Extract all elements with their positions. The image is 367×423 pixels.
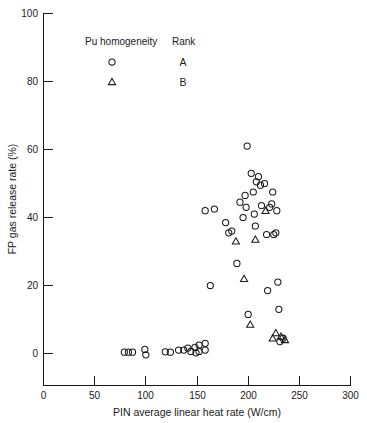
legend-entry-rank-a: A bbox=[109, 56, 187, 68]
data-point-circle bbox=[276, 306, 282, 312]
data-point-circle bbox=[274, 208, 280, 214]
data-point-circle bbox=[257, 182, 263, 188]
y-axis-title: FP gas release rate (%) bbox=[6, 144, 18, 255]
data-point-circle bbox=[265, 288, 271, 294]
scatter-plot-figure: 100 80 60 40 20 0 0 50 100 150 200 250 3… bbox=[0, 0, 367, 423]
x-tick-label: 100 bbox=[137, 390, 154, 401]
legend: Pu homogeneity Rank A B bbox=[85, 36, 196, 88]
legend-rank-label: B bbox=[179, 76, 186, 88]
data-point-triangle bbox=[252, 236, 259, 242]
data-point-circle bbox=[211, 206, 217, 212]
y-tick-label: 40 bbox=[27, 212, 39, 223]
data-point-triangle bbox=[272, 330, 279, 336]
data-point-circle bbox=[223, 220, 229, 226]
x-axis-ticks bbox=[44, 376, 351, 386]
data-point-circle bbox=[258, 203, 264, 209]
y-axis-tick-labels: 100 80 60 40 20 0 bbox=[21, 8, 38, 359]
data-point-circle bbox=[242, 192, 248, 198]
data-point-circle bbox=[202, 340, 208, 346]
x-tick-label: 150 bbox=[189, 390, 206, 401]
y-tick-label: 100 bbox=[21, 8, 38, 19]
data-point-circle bbox=[240, 214, 246, 220]
data-point-circle bbox=[202, 208, 208, 214]
legend-column-header-rank: Rank bbox=[172, 36, 196, 47]
x-axis-title: PIN average linear heat rate (W/cm) bbox=[113, 406, 281, 418]
data-point-triangle bbox=[232, 238, 239, 244]
x-tick-label: 200 bbox=[240, 390, 257, 401]
data-point-circle bbox=[248, 170, 254, 176]
triangle-marker-icon bbox=[108, 78, 115, 84]
y-tick-label: 0 bbox=[32, 348, 38, 359]
legend-rank-label: A bbox=[179, 56, 186, 68]
series-rank-b bbox=[232, 207, 288, 342]
data-point-circle bbox=[237, 199, 243, 205]
legend-column-header-homogeneity: Pu homogeneity bbox=[85, 36, 157, 47]
data-point-circle bbox=[263, 231, 269, 237]
data-point-circle bbox=[202, 347, 208, 353]
data-point-circle bbox=[243, 204, 249, 210]
y-tick-label: 80 bbox=[27, 76, 39, 87]
data-point-circle bbox=[129, 349, 135, 355]
x-tick-label: 0 bbox=[41, 390, 47, 401]
data-point-circle bbox=[250, 189, 256, 195]
circle-marker-icon bbox=[109, 59, 115, 65]
x-tick-label: 50 bbox=[89, 390, 101, 401]
data-points-layer bbox=[121, 143, 288, 358]
data-point-circle bbox=[270, 189, 276, 195]
plot-canvas: 100 80 60 40 20 0 0 50 100 150 200 250 3… bbox=[0, 0, 367, 423]
data-point-circle bbox=[207, 282, 213, 288]
data-point-triangle bbox=[241, 275, 248, 281]
x-tick-label: 300 bbox=[342, 390, 359, 401]
legend-entry-rank-b: B bbox=[108, 76, 186, 88]
data-point-circle bbox=[245, 311, 251, 317]
y-tick-label: 20 bbox=[27, 280, 39, 291]
x-axis-tick-labels: 0 50 100 150 200 250 300 bbox=[41, 390, 360, 401]
y-tick-label: 60 bbox=[27, 144, 39, 155]
y-axis-ticks bbox=[44, 14, 54, 354]
series-rank-a bbox=[121, 143, 286, 358]
data-point-circle bbox=[261, 180, 267, 186]
data-point-circle bbox=[252, 223, 258, 229]
data-point-triangle bbox=[247, 321, 254, 327]
axes bbox=[44, 13, 352, 386]
data-point-circle bbox=[244, 143, 250, 149]
data-point-circle bbox=[234, 260, 240, 266]
data-point-circle bbox=[275, 279, 281, 285]
data-point-circle bbox=[251, 211, 257, 217]
x-tick-label: 250 bbox=[291, 390, 308, 401]
